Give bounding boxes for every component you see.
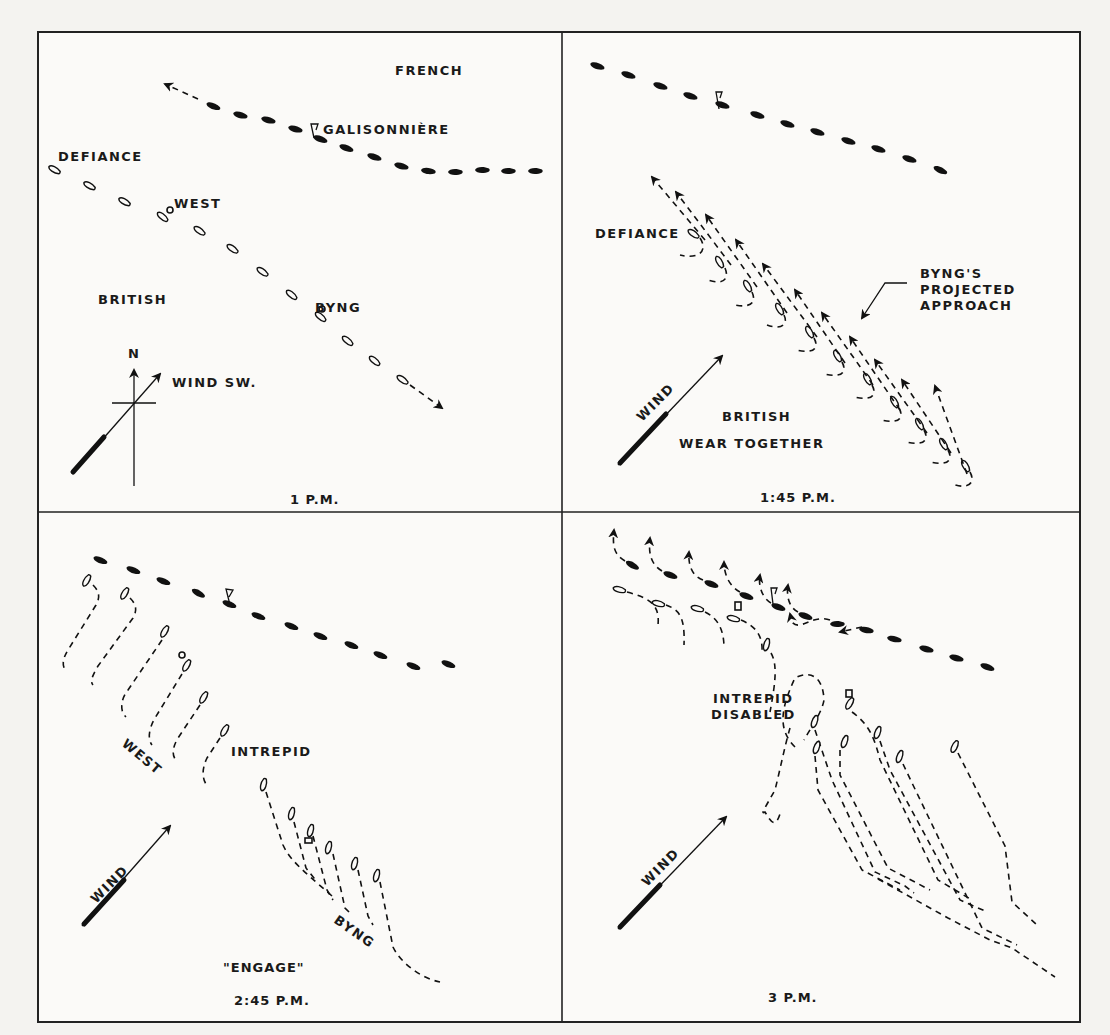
label-engage-signal: "ENGAGE" bbox=[223, 960, 305, 975]
label-british: BRITISH bbox=[98, 292, 167, 307]
label-byng: BYNG bbox=[315, 300, 361, 315]
battle-diagram: FRENCH GALISONNIÈRE DEFIANCE bbox=[0, 0, 1110, 1035]
label-approach: APPROACH bbox=[920, 298, 1012, 313]
label-west: WEST bbox=[174, 196, 221, 211]
label-byngs: BYNG'S bbox=[920, 266, 983, 281]
label-galissoniere: GALISONNIÈRE bbox=[323, 122, 450, 137]
label-projected: PROJECTED bbox=[920, 282, 1016, 297]
label-wear-together: WEAR TOGETHER bbox=[679, 436, 824, 451]
label-defiance: DEFIANCE bbox=[595, 226, 680, 241]
label-north: N bbox=[128, 346, 140, 361]
label-intrepid: INTREPID bbox=[713, 691, 794, 706]
caption-2-45pm: 2:45 P.M. bbox=[234, 993, 310, 1008]
label-wind-sw: WIND SW. bbox=[172, 375, 257, 390]
label-defiance: DEFIANCE bbox=[58, 149, 143, 164]
label-french: FRENCH bbox=[395, 63, 463, 78]
label-intrepid: INTREPID bbox=[231, 744, 312, 759]
caption-3pm: 3 P.M. bbox=[768, 990, 818, 1005]
label-disabled: DISABLED bbox=[711, 707, 796, 722]
caption-1pm: 1 P.M. bbox=[290, 492, 340, 507]
diagram-frame bbox=[38, 32, 1080, 1022]
caption-1-45pm: 1:45 P.M. bbox=[760, 490, 836, 505]
west-flag-icon bbox=[167, 207, 173, 213]
label-british: BRITISH bbox=[722, 409, 791, 424]
